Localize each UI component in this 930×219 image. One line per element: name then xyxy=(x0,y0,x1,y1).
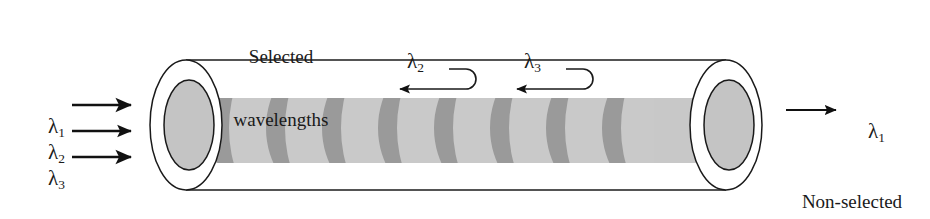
waveguide-diagram: λ1 λ2 λ3 Selected wavelengths λ2 λ3 λ1 N… xyxy=(0,0,930,219)
lambda-subscript: 2 xyxy=(417,60,424,75)
lambda-2-reflection-label: λ2 xyxy=(386,26,424,97)
lambda-subscript: 3 xyxy=(534,60,541,75)
selected-wavelengths-caption: Selected wavelengths xyxy=(205,3,357,173)
selected-wavelengths-line1: Selected xyxy=(205,46,357,67)
selected-wavelengths-line2: wavelengths xyxy=(205,109,357,130)
lambda-3-reflection-label: λ3 xyxy=(503,26,541,97)
lambda-symbol: λ xyxy=(48,166,58,190)
lambda-symbol: λ xyxy=(524,49,534,73)
input-arrow-group xyxy=(72,105,131,157)
lambda-3-input-label: λ3 xyxy=(27,143,65,214)
nonselected-wavelengths-line1: Non-selected xyxy=(778,191,926,212)
lambda-subscript: 3 xyxy=(58,177,65,192)
nonselected-wavelengths-caption: Non-selected wavelengths xyxy=(778,148,926,219)
right-end-cap xyxy=(690,60,762,190)
lambda-symbol: λ xyxy=(407,49,417,73)
lambda-symbol: λ xyxy=(868,119,878,143)
lambda-subscript: 1 xyxy=(878,130,885,145)
reflection-hook-group xyxy=(400,69,593,89)
